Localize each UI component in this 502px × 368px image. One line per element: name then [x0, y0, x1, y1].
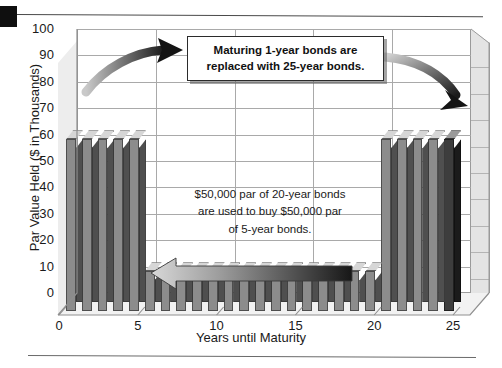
bar-top-face	[129, 130, 146, 139]
bar-front-face	[334, 271, 344, 311]
bar-column	[208, 262, 218, 311]
bar-side-face	[407, 139, 414, 302]
bar-top-face	[365, 262, 382, 271]
bar-side-face	[155, 271, 162, 302]
bar-front-face	[113, 139, 123, 311]
bar-side-face	[249, 271, 256, 302]
bar-top-face	[381, 130, 398, 139]
bar-column	[381, 130, 391, 311]
bar-column	[145, 262, 155, 311]
bar-side-face	[92, 139, 99, 302]
bar-top-face	[350, 262, 367, 271]
bar-side-face	[375, 271, 382, 302]
bar-front-face	[287, 271, 297, 311]
bar-column	[334, 262, 344, 311]
bar-column	[176, 262, 186, 311]
bar-front-face	[365, 271, 375, 311]
bar-side-face	[202, 271, 209, 302]
bar-front-face	[239, 271, 249, 311]
bar-side-face	[186, 271, 193, 302]
bar-side-face	[265, 271, 272, 302]
bar-side-face	[281, 271, 288, 302]
bar-side-face	[438, 139, 445, 302]
bar-side-face	[312, 271, 319, 302]
bar-column	[161, 262, 171, 311]
bar-top-face	[66, 130, 83, 139]
bar-front-face	[413, 139, 423, 311]
bar-front-face	[129, 139, 139, 311]
bar-front-face	[224, 271, 234, 311]
x-tick-0: 0	[41, 318, 77, 333]
callout-top-box: Maturing 1-year bonds are replaced with …	[187, 36, 384, 81]
bar-side-face	[296, 271, 303, 302]
bar-side-face	[170, 271, 177, 302]
bar-column	[239, 262, 249, 311]
bar-side-face	[218, 271, 225, 302]
bar-front-face	[428, 139, 438, 311]
bar-side-face	[107, 139, 114, 302]
bar-column	[287, 262, 297, 311]
callout-top-line1: Maturing 1-year bonds are	[196, 42, 375, 58]
bar-top-face	[255, 262, 272, 271]
x-tick-20: 20	[356, 318, 392, 333]
bar-top-face	[444, 130, 461, 139]
bar-front-face	[192, 271, 202, 311]
y-axis-title: Par Value Held ($ in Thousands)	[27, 28, 42, 288]
bar-column	[413, 130, 423, 311]
bar-front-face	[161, 271, 171, 311]
bar-top-face	[239, 262, 256, 271]
bar-column	[66, 130, 76, 311]
bar-top-face	[161, 262, 178, 271]
bar-top-face	[192, 262, 209, 271]
x-axis-title: Years until Maturity	[151, 330, 351, 345]
bar-top-face	[302, 262, 319, 271]
bar-top-face	[397, 130, 414, 139]
bar-column	[224, 262, 234, 311]
bar-front-face	[145, 271, 155, 311]
bar-front-face	[318, 271, 328, 311]
bar-top-face	[318, 262, 335, 271]
bar-side-face	[344, 271, 351, 302]
bar-top-face	[176, 262, 193, 271]
bar-side-face	[76, 139, 83, 302]
bar-column	[350, 262, 360, 311]
bar-front-face	[397, 139, 407, 311]
bar-column	[255, 262, 265, 311]
bar-top-face	[98, 130, 115, 139]
bar-column	[444, 130, 454, 311]
bar-front-face	[271, 271, 281, 311]
note-middle-line1: $50,000 par of 20-year bonds	[162, 186, 378, 203]
bar-front-face	[350, 271, 360, 311]
bar-top-face	[334, 262, 351, 271]
bar-side-face	[391, 139, 398, 302]
bar-front-face	[82, 139, 92, 311]
bar-front-face	[176, 271, 186, 311]
bar-top-face	[113, 130, 130, 139]
bar-front-face	[381, 139, 391, 311]
bar-column	[98, 130, 108, 311]
bar-side-face	[422, 139, 429, 302]
callout-top-line2: replaced with 25-year bonds.	[196, 58, 375, 74]
bar-top-face	[271, 262, 288, 271]
bar-side-face	[139, 139, 146, 302]
figure-page: 1009080706050403020100 0510152025 Par Va…	[0, 0, 502, 368]
bar-column	[82, 130, 92, 311]
bar-top-face	[208, 262, 225, 271]
bar-column	[302, 262, 312, 311]
bar-front-face	[302, 271, 312, 311]
bar-side-face	[454, 139, 461, 302]
bar-side-face	[359, 271, 366, 302]
bar-front-face	[98, 139, 108, 311]
note-middle-text: $50,000 par of 20-year bonds are used to…	[162, 186, 378, 238]
note-middle-line3: of 5-year bonds.	[162, 221, 378, 238]
bar-column	[192, 262, 202, 311]
bar-column	[129, 130, 139, 311]
bar-top-face	[82, 130, 99, 139]
bar-side-face	[233, 271, 240, 302]
bar-front-face	[66, 139, 76, 311]
bar-top-face	[287, 262, 304, 271]
bar-column	[365, 262, 375, 311]
bar-top-face	[224, 262, 241, 271]
bar-top-face	[413, 130, 430, 139]
bar-top-face	[428, 130, 445, 139]
